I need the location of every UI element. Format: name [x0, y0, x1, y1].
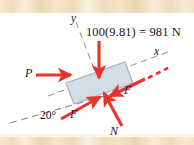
axis-x-label: x	[154, 46, 159, 58]
normal-force-label: N	[110, 125, 118, 137]
normal-force-arrow	[104, 93, 122, 126]
applied-force-p-label: P	[25, 67, 32, 79]
friction-force-right-extension-dashed	[148, 68, 168, 78]
incline-angle-label: 20°	[40, 110, 56, 122]
friction-force-right-label: F	[124, 84, 131, 96]
weight-label: 100(9.81) = 981 N	[86, 26, 181, 39]
free-body-diagram-figure: 100(9.81) = 981 N y x P F F N 20°	[0, 0, 194, 145]
friction-force-left-label: F	[70, 108, 77, 120]
axis-y-label: y	[71, 13, 76, 25]
